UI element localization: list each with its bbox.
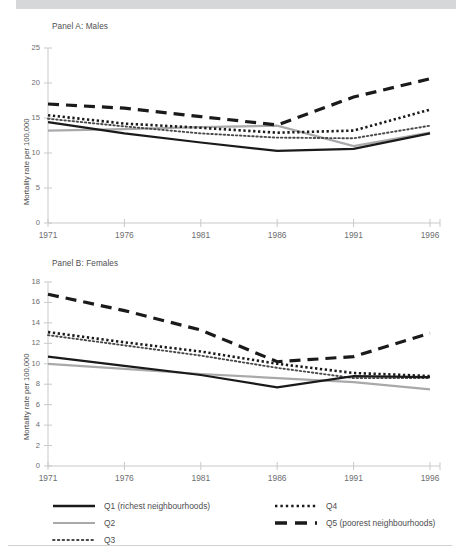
panel-b-plot <box>0 266 456 491</box>
legend-swatch-q3 <box>52 535 96 545</box>
svg-b-ytick: 4 <box>14 420 40 429</box>
series-line <box>48 332 430 376</box>
legend-item-q5: Q5 (poorest neighbourhoods) <box>274 516 435 530</box>
svg-a-ytick: 25 <box>14 43 40 52</box>
legend-swatch-q2 <box>52 518 96 528</box>
svg-a-xtick: 1981 <box>181 230 221 240</box>
svg-b-ytick: 18 <box>14 277 40 286</box>
series-line <box>48 79 430 125</box>
svg-b-xtick: 1981 <box>181 473 221 483</box>
bottom-divider <box>8 545 452 546</box>
legend-swatch-q4 <box>274 501 318 511</box>
svg-b-xtick: 1986 <box>257 473 297 483</box>
svg-b-ytick: 14 <box>14 318 40 327</box>
legend-swatch-q1 <box>52 501 96 511</box>
legend-swatch-q5 <box>274 518 318 528</box>
svg-a-xtick: 1971 <box>28 230 68 240</box>
svg-b-ytick: 10 <box>14 359 40 368</box>
svg-b-ytick: 0 <box>14 461 40 470</box>
svg-a-ytick: 10 <box>14 148 40 157</box>
figure-page: Panel A: Males Mortality rate per 100,00… <box>0 0 456 557</box>
legend-label-q2: Q2 <box>104 518 115 528</box>
top-gray-band <box>16 0 456 9</box>
svg-a-xtick: 1996 <box>410 230 450 240</box>
svg-b-xtick: 1991 <box>334 473 374 483</box>
legend: Q1 (richest neighbourhoods) Q2 Q3 Q4 Q5 <box>52 499 452 547</box>
panel-a-plot <box>0 30 456 235</box>
svg-b-xtick: 1976 <box>104 473 144 483</box>
svg-b-ytick: 2 <box>14 441 40 450</box>
legend-label-q5: Q5 (poorest neighbourhoods) <box>326 518 435 528</box>
svg-b-xtick: 1971 <box>28 473 68 483</box>
legend-label-q3: Q3 <box>104 535 115 545</box>
svg-a-ytick: 20 <box>14 78 40 87</box>
legend-item-q4: Q4 <box>274 499 337 513</box>
svg-a-xtick: 1976 <box>104 230 144 240</box>
svg-b-ytick: 8 <box>14 379 40 388</box>
svg-b-ytick: 12 <box>14 338 40 347</box>
legend-label-q4: Q4 <box>326 501 337 511</box>
svg-b-ytick: 6 <box>14 400 40 409</box>
svg-b-xtick: 1996 <box>410 473 450 483</box>
svg-a-xtick: 1991 <box>334 230 374 240</box>
svg-b-ytick: 16 <box>14 297 40 306</box>
svg-a-ytick: 5 <box>14 183 40 192</box>
svg-a-xtick: 1986 <box>257 230 297 240</box>
svg-a-ytick: 0 <box>14 218 40 227</box>
series-line <box>48 294 430 361</box>
legend-item-q1: Q1 (richest neighbourhoods) <box>52 499 210 513</box>
legend-label-q1: Q1 (richest neighbourhoods) <box>104 501 210 511</box>
legend-item-q2: Q2 <box>52 516 115 530</box>
svg-a-ytick: 15 <box>14 113 40 122</box>
